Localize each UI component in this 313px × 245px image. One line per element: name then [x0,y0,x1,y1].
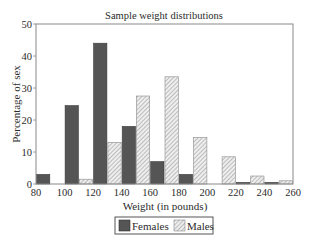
bar-males-100 [79,179,92,184]
y-tick-label: 20 [22,115,33,126]
y-tick-label: 50 [22,19,33,30]
x-tick-label: 220 [228,187,244,198]
x-axis-label: Weight (in pounds) [123,200,208,213]
bar-females-80 [37,174,50,184]
y-tick-label: 30 [22,83,33,94]
legend: Females Males [115,217,214,234]
x-tick-label: 180 [171,187,187,198]
x-tick-label: 160 [142,187,158,198]
legend-females-label: Females [132,220,169,232]
x-tick-label: 100 [57,187,73,198]
legend-males-label: Males [187,220,214,232]
chart-title: Sample weight distributions [105,10,223,21]
x-tick-label: 80 [31,187,42,198]
bar-females-180 [179,174,192,184]
males-swatch-icon [174,220,185,231]
x-tick-label: 140 [114,187,130,198]
bar-males-200 [222,157,235,184]
x-axis-ticks: 80100120140160180200220240260 [31,187,301,198]
x-tick-label: 240 [257,187,273,198]
bar-males-180 [194,138,207,184]
bar-females-160 [151,162,164,184]
chart: Sample weight distributions 01020304050 … [0,0,313,245]
y-tick-label: 40 [22,51,33,62]
y-axis-label: Percentage of sex [10,65,22,143]
bar-females-120 [94,43,107,184]
y-tick-label: 10 [22,147,33,158]
bar-females-140 [122,126,135,184]
bar-males-120 [108,142,121,184]
bars-group [37,43,293,184]
females-swatch-icon [119,220,130,231]
bar-males-140 [136,96,149,184]
x-tick-label: 260 [285,187,301,198]
bar-males-160 [165,77,178,184]
bar-females-100 [65,106,78,184]
bar-males-220 [251,176,264,184]
x-tick-label: 120 [85,187,101,198]
y-axis-ticks: 01020304050 [22,19,37,190]
x-tick-label: 200 [199,187,215,198]
